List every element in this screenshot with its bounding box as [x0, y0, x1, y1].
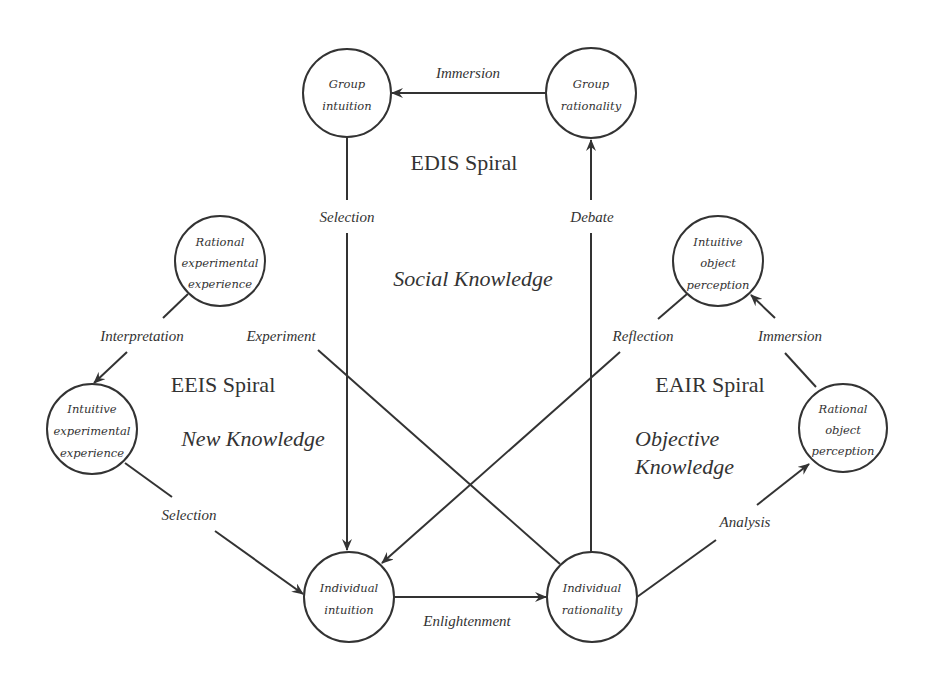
edge-immersion-right-upper: [751, 295, 775, 318]
edge-analysis-lower: [637, 540, 716, 597]
node-label-line: intuition: [324, 603, 373, 617]
node-label-line: Rational: [818, 402, 868, 416]
node-intuitive-object-perception: Intuitive object perception: [673, 216, 763, 306]
node-label-line: rationality: [561, 99, 622, 113]
node-label-line: experience: [188, 277, 252, 291]
edge-label-immersion-right: Immersion: [757, 328, 822, 344]
node-group-rationality: Group rationality: [546, 48, 636, 138]
knowledge-label-objective-line1: Objective: [635, 426, 720, 451]
edge-label-interpretation: Interpretation: [99, 328, 184, 344]
edge-label-analysis: Analysis: [719, 514, 771, 530]
node-rational-experimental-experience: Rational experimental experience: [175, 216, 265, 306]
node-label-line: experience: [60, 446, 124, 460]
knowledge-spiral-diagram: Group intuition Group rationality Ration…: [0, 0, 934, 674]
node-group-intuition: Group intuition: [303, 49, 391, 137]
edge-reflection-lower: [382, 352, 620, 563]
edge-selection-left-lower: [215, 531, 303, 594]
edge-analysis-upper: [757, 464, 809, 505]
spiral-title-eair: EAIR Spiral: [655, 372, 764, 397]
node-label-line: rationality: [562, 603, 623, 617]
node-label-line: intuition: [322, 99, 371, 113]
edge-label-enlightenment: Enlightenment: [422, 613, 511, 629]
knowledge-label-new: New Knowledge: [180, 426, 325, 451]
edge-label-selection-left: Selection: [162, 507, 217, 523]
spiral-title-eeis: EEIS Spiral: [171, 372, 276, 397]
spiral-title-edis: EDIS Spiral: [411, 150, 518, 175]
edge-interpretation-upper: [163, 294, 188, 318]
edge-label-experiment: Experiment: [245, 328, 316, 344]
node-label-line: Group: [573, 77, 610, 91]
edge-label-reflection: Reflection: [612, 328, 674, 344]
edge-label-immersion-top: Immersion: [435, 65, 500, 81]
edge-label-debate: Debate: [569, 209, 614, 225]
node-label-line: Group: [329, 77, 366, 91]
node-label-line: experimental: [54, 424, 131, 438]
node-label-line: object: [700, 256, 736, 270]
knowledge-label-social: Social Knowledge: [393, 266, 553, 291]
node-label-line: object: [825, 423, 861, 437]
edge-selection-left-upper: [125, 463, 172, 497]
node-label-line: Intuitive: [66, 402, 116, 416]
node-label-line: Individual: [319, 581, 379, 595]
edge-reflection-upper: [658, 294, 687, 319]
edge-immersion-right-lower: [785, 353, 816, 387]
node-label-line: perception: [812, 444, 875, 458]
edge-interpretation-lower: [94, 352, 127, 383]
node-intuitive-experimental-experience: Intuitive experimental experience: [47, 384, 137, 474]
knowledge-label-objective-line2: Knowledge: [634, 454, 734, 479]
node-label-line: experimental: [182, 256, 259, 270]
node-rational-object-perception: Rational object perception: [799, 384, 887, 472]
node-label-line: Intuitive: [692, 235, 742, 249]
edge-experiment-lower: [318, 350, 560, 564]
edge-label-selection-top: Selection: [320, 209, 375, 225]
node-label-line: Individual: [562, 581, 622, 595]
node-individual-rationality: Individual rationality: [547, 552, 637, 642]
node-individual-intuition: Individual intuition: [304, 552, 394, 642]
node-label-line: Rational: [195, 235, 245, 249]
node-label-line: perception: [687, 278, 750, 292]
